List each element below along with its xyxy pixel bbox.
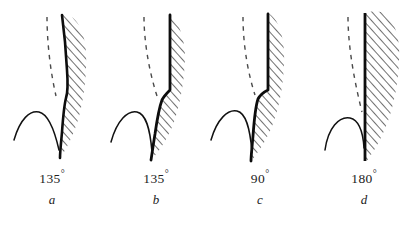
angle-label-a: 135° <box>0 168 104 187</box>
degree-symbol-a: ° <box>61 168 65 179</box>
dashed-reference-line <box>243 17 255 95</box>
panel-letter-c: c <box>208 192 312 208</box>
meniscus-arc <box>325 118 364 150</box>
degree-symbol-b: ° <box>165 168 169 179</box>
angle-value-d: 180 <box>351 171 372 186</box>
angle-value-c: 90 <box>251 171 265 186</box>
panel-letter-a: a <box>0 192 104 208</box>
contact-angle-figure: 135° a 135° b <box>0 0 416 228</box>
meniscus-arc <box>211 111 252 152</box>
angle-label-c: 90° <box>208 168 312 187</box>
meniscus-arc <box>14 112 59 150</box>
hatched-solid-region <box>104 0 208 170</box>
panel-a: 135° a <box>0 0 104 228</box>
angle-label-b: 135° <box>104 168 208 187</box>
dashed-reference-line <box>348 17 362 112</box>
degree-symbol-c: ° <box>265 168 269 179</box>
panel-c: 90° c <box>208 0 312 228</box>
panel-d: 180° d <box>312 0 416 228</box>
angle-label-d: 180° <box>312 168 416 187</box>
angle-value-b: 135 <box>143 171 164 186</box>
degree-symbol-d: ° <box>373 168 377 179</box>
hatched-solid-region <box>0 0 104 170</box>
panel-letter-b: b <box>104 192 208 208</box>
dashed-reference-line <box>144 17 157 96</box>
panel-b: 135° b <box>104 0 208 228</box>
panel-letter-d: d <box>312 192 416 208</box>
meniscus-arc <box>111 112 152 152</box>
angle-value-a: 135 <box>39 171 60 186</box>
hatched-solid-region <box>208 0 312 170</box>
panel-d-drawing <box>312 0 416 170</box>
dashed-reference-line <box>47 17 56 96</box>
panel-c-drawing <box>208 0 312 170</box>
panel-a-drawing <box>0 0 104 170</box>
panel-b-drawing <box>104 0 208 170</box>
